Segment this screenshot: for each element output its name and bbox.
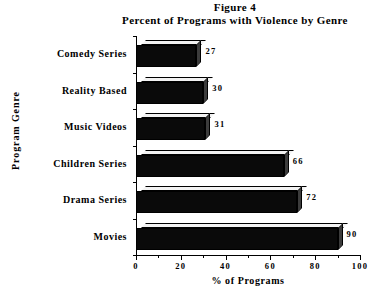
x-tick-major <box>226 255 227 260</box>
category-label-drama-series: Drama Series <box>0 194 127 205</box>
bar-front-face <box>136 118 205 140</box>
bar-movies <box>136 223 343 250</box>
bar-value-label: 72 <box>306 192 317 202</box>
x-tick-major <box>360 255 361 260</box>
category-label-movies: Movies <box>0 231 127 242</box>
bar-music-videos <box>136 113 210 140</box>
x-tick-minor <box>203 255 204 258</box>
x-tick-minor <box>338 255 339 258</box>
bar-side-face <box>338 223 343 250</box>
x-tick-label: 20 <box>161 261 201 271</box>
bar-side-face <box>203 77 208 104</box>
bar-comedy-series <box>136 40 201 67</box>
bar-side-face <box>284 150 289 177</box>
y-tick <box>133 73 137 74</box>
y-tick <box>133 109 137 110</box>
bar-front-face <box>136 82 203 104</box>
y-axis-label: Program Genre <box>10 71 21 191</box>
x-tick-label: 80 <box>295 261 335 271</box>
bar-front-face <box>136 155 284 177</box>
x-tick-major <box>315 255 316 260</box>
bar-drama-series <box>136 186 302 213</box>
x-tick-major <box>270 255 271 260</box>
x-tick-label: 40 <box>206 261 246 271</box>
x-axis-label: % of Programs <box>136 275 360 286</box>
x-tick-minor <box>293 255 294 258</box>
x-tick-minor <box>158 255 159 258</box>
y-tick <box>133 146 137 147</box>
category-label-comedy-series: Comedy Series <box>0 48 127 59</box>
bar-value-label: 27 <box>205 46 216 56</box>
bar-side-face <box>297 186 302 213</box>
bar-front-face <box>136 228 338 250</box>
bar-front-face <box>136 45 196 67</box>
x-tick-major <box>181 255 182 260</box>
x-tick-label: 100 <box>340 261 369 271</box>
bar-children-series <box>136 150 289 177</box>
bar-value-label: 66 <box>293 156 304 166</box>
bar-front-face <box>136 191 297 213</box>
y-tick <box>133 255 137 256</box>
y-tick <box>133 36 137 37</box>
bar-side-face <box>196 40 201 67</box>
y-tick <box>133 182 137 183</box>
bar-value-label: 30 <box>212 83 223 93</box>
bar-value-label: 90 <box>347 229 358 239</box>
chart-plot-area: 020406080100 Comedy SeriesReality BasedM… <box>0 0 369 291</box>
bar-value-label: 31 <box>214 119 225 129</box>
bar-reality-based <box>136 77 208 104</box>
y-tick <box>133 219 137 220</box>
bar-side-face <box>205 113 210 140</box>
x-tick-label: 0 <box>116 261 156 271</box>
x-tick-label: 60 <box>250 261 290 271</box>
x-tick-minor <box>248 255 249 258</box>
